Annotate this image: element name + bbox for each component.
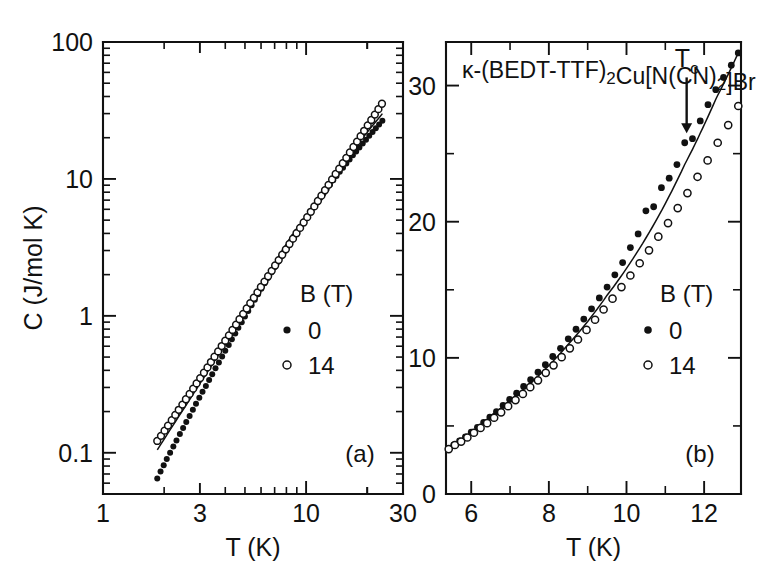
panel-a-data-point <box>187 413 193 419</box>
panel-b-data-point <box>527 376 534 383</box>
panel-b-data-point <box>573 326 580 333</box>
panel-a-data-point <box>177 431 183 437</box>
panel-b-xtick-label: 8 <box>542 499 556 527</box>
panel-a-data-point <box>203 383 209 389</box>
panel-b-data-point <box>666 175 673 182</box>
panel-b-data-point <box>484 420 491 427</box>
panel-b-xtick-label: 10 <box>613 499 641 527</box>
panel-a-data-point <box>212 365 218 371</box>
panel-b-data-point <box>664 219 671 226</box>
panel-b-data-point <box>735 102 742 109</box>
panel-a-x-axis-title: T (K) <box>225 533 280 561</box>
panel-a-ytick-label: 100 <box>51 28 93 56</box>
panel-b-data-point <box>535 369 542 376</box>
panel-b-data-point <box>618 283 625 290</box>
panel-b-data-point <box>684 190 691 197</box>
panel-b-data-point <box>583 326 590 333</box>
panel-b-data-point <box>627 244 634 251</box>
panel-b-data-point <box>735 49 742 56</box>
panel-a-legend-marker-open <box>283 361 291 369</box>
panel-b-ytick-label: 10 <box>408 344 436 372</box>
panel-a-data-point <box>196 395 202 401</box>
panel-b-data-point <box>491 414 498 421</box>
panel-a-data-point <box>154 475 160 481</box>
panel-b-data-point <box>705 101 712 108</box>
panel-b-data-point <box>714 139 721 146</box>
panel-b-ytick-label: 30 <box>408 72 436 100</box>
panel-b-data-point <box>658 184 665 191</box>
panel-b-x-axis-title: T (K) <box>566 533 621 561</box>
panel-b-data-point <box>591 316 598 323</box>
panel-b-legend-label-14: 14 <box>669 352 696 379</box>
panel-b-ytick-label: 20 <box>408 208 436 236</box>
panel-b-data-point <box>566 345 573 352</box>
panel-a-data-point <box>173 437 179 443</box>
panel-b-data-point <box>565 335 572 342</box>
panel-a-data-point <box>161 462 167 468</box>
panel-b-data-point <box>611 271 618 278</box>
panel-b-data-point <box>549 353 556 360</box>
panel-a-data-point <box>209 371 215 377</box>
panel-b-tag: (b) <box>685 440 714 467</box>
panel-b-data-point <box>697 118 704 125</box>
panel-b-data-point <box>636 260 643 267</box>
panel-a-xtick-label: 10 <box>292 499 320 527</box>
panel-b-data-point <box>619 259 626 266</box>
panel-b-tc-arrow-head <box>681 123 692 133</box>
panel-b-data-point <box>558 354 565 361</box>
panel-a-data-point <box>379 100 386 107</box>
panel-b-data-point <box>557 345 564 352</box>
panel-a-ytick-label: 10 <box>65 165 93 193</box>
panel-a-data-point <box>193 401 199 407</box>
figure-svg: 0.1110100131030C (J/mol K)T (K)(a)B (T)0… <box>0 0 779 574</box>
panel-a-data-point <box>158 469 164 475</box>
panel-a-data-point <box>216 359 222 365</box>
panel-a-data-point <box>170 444 176 450</box>
panel-a-data-point <box>200 389 206 395</box>
panel-b-data-point <box>674 205 681 212</box>
panel-b-data-point <box>704 157 711 164</box>
panel-b-legend-marker-filled <box>644 326 652 334</box>
panel-b-data-point <box>596 295 603 302</box>
panel-b-xtick-label: 12 <box>690 499 718 527</box>
panel-b-data-point <box>725 121 732 128</box>
panel-b-data-point <box>645 247 652 254</box>
panel-a-legend-label-14: 14 <box>308 352 335 379</box>
panel-a-legend-title: B (T) <box>300 280 353 307</box>
panel-b-data-point <box>534 377 541 384</box>
panel-b-data-point <box>609 295 616 302</box>
panel-b-data-point <box>650 203 657 210</box>
panel-b-data-point <box>635 231 642 238</box>
panel-b-legend-title: B (T) <box>660 280 713 307</box>
panel-a-xtick-label: 1 <box>96 499 110 527</box>
panel-b-xtick-label: 6 <box>464 499 478 527</box>
panel-a-data-point <box>180 425 186 431</box>
panel-a-legend-label-0: 0 <box>308 317 321 344</box>
panel-b-data-point <box>477 424 484 431</box>
panel-a-legend-marker-filled <box>283 326 290 333</box>
panel-b-legend-label-0: 0 <box>669 317 682 344</box>
panel-a-xtick-label: 30 <box>389 499 417 527</box>
panel-b-legend-marker-open <box>644 361 652 369</box>
panel-b-series-0 <box>445 49 741 451</box>
panel-a-data-point <box>183 419 189 425</box>
panel-a-tag: (a) <box>345 440 374 467</box>
panel-b-data-point <box>505 403 512 410</box>
panel-b-data-point <box>527 384 534 391</box>
panel-b-series-14 <box>445 102 742 452</box>
panel-b-data-point <box>627 272 634 279</box>
panel-b-ytick-label: 0 <box>422 480 436 508</box>
panel-b-data-point <box>464 434 471 441</box>
panel-b-data-point <box>674 161 681 168</box>
panel-b-data-point <box>542 361 549 368</box>
panel-a-xtick-label: 3 <box>193 499 207 527</box>
panel-b-data-point <box>580 316 587 323</box>
panel-b-data-point <box>655 233 662 240</box>
panel-a-data-point <box>379 118 385 124</box>
panel-b-data-point <box>512 396 519 403</box>
panel-a-data-point <box>164 456 170 462</box>
panel-b-data-point <box>470 429 477 436</box>
panel-b-data-point <box>542 369 549 376</box>
panel-b-data-point <box>600 306 607 313</box>
panel-b-data-point <box>519 390 526 397</box>
